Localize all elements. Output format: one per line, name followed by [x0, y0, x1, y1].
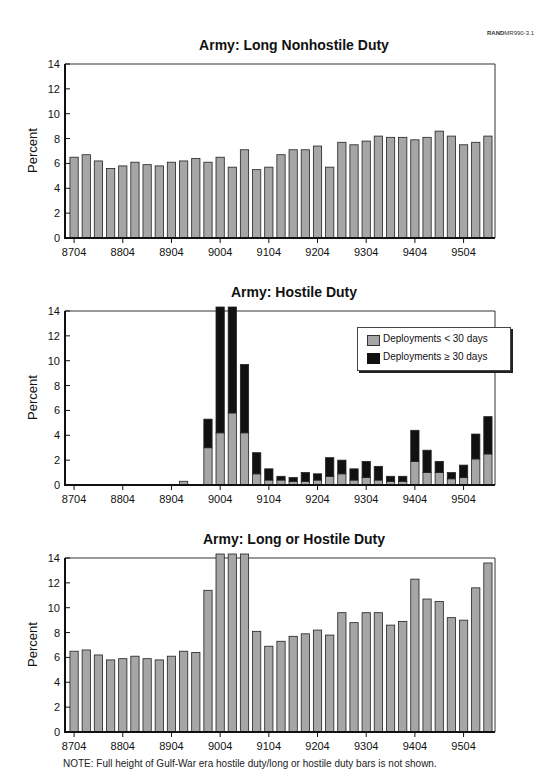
y-tick-label: 6: [54, 651, 60, 663]
x-tick-label: 9204: [305, 740, 329, 752]
bar: [94, 655, 102, 732]
x-tick-label: 9504: [451, 740, 475, 752]
chart3-plot: 0246810121487048804890490049104920493049…: [0, 0, 548, 778]
bar: [326, 635, 334, 732]
bar: [143, 659, 151, 732]
bar: [484, 563, 492, 732]
bar: [228, 554, 236, 732]
footnote: NOTE: Full height of Gulf-War era hostil…: [63, 758, 437, 769]
x-tick-label: 8704: [62, 740, 86, 752]
bar: [374, 613, 382, 732]
y-tick-label: 8: [54, 627, 60, 639]
bar: [362, 613, 370, 732]
y-tick-label: 0: [54, 726, 60, 738]
bar: [399, 621, 407, 732]
y-tick-label: 10: [48, 602, 60, 614]
bar: [313, 630, 321, 732]
x-tick-label: 9404: [403, 740, 427, 752]
bar: [447, 618, 455, 732]
bar: [472, 588, 480, 732]
bar: [253, 631, 261, 732]
bar: [423, 599, 431, 732]
y-tick-label: 4: [54, 676, 60, 688]
x-tick-label: 9004: [208, 740, 232, 752]
bar: [155, 660, 163, 732]
bar: [106, 660, 114, 732]
bar: [192, 652, 200, 732]
bar: [216, 554, 224, 732]
y-tick-label: 2: [54, 701, 60, 713]
bar: [119, 659, 127, 732]
y-tick-label: 12: [48, 577, 60, 589]
bar: [240, 554, 248, 732]
bar: [338, 613, 346, 732]
bar: [386, 625, 394, 732]
bar: [350, 623, 358, 732]
x-tick-label: 8804: [111, 740, 135, 752]
x-tick-label: 9104: [257, 740, 281, 752]
bar: [289, 636, 297, 732]
x-tick-label: 9304: [354, 740, 378, 752]
bar: [265, 646, 273, 732]
bar: [167, 656, 175, 732]
bar: [459, 620, 467, 732]
bar: [301, 634, 309, 732]
bar: [435, 602, 443, 733]
bar: [131, 656, 139, 732]
bar: [70, 651, 78, 732]
bar: [179, 651, 187, 732]
bar: [277, 641, 285, 732]
y-tick-label: 14: [48, 552, 60, 564]
bar: [82, 650, 90, 732]
bar: [411, 579, 419, 732]
bar: [204, 590, 212, 732]
x-tick-label: 8904: [159, 740, 183, 752]
